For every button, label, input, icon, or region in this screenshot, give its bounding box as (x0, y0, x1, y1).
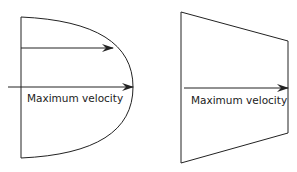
parabolic-profile: Maximum velocity (8, 17, 133, 158)
max-velocity-label: Maximum velocity (27, 92, 123, 104)
velocity-profiles-diagram: Maximum velocity Maximum velocity (0, 0, 297, 172)
trapezoidal-profile: Maximum velocity (181, 12, 288, 163)
max-velocity-label: Maximum velocity (191, 94, 287, 106)
